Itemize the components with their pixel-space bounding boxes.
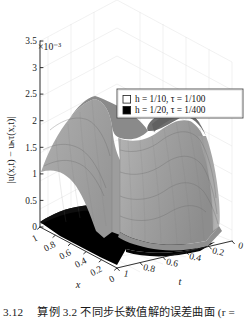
caption-number: 3.12 <box>3 306 23 318</box>
black-square-marker-icon <box>123 106 131 114</box>
error-surface-figure: 0 0.5 1 1.5 2 2.5 3 3.5 1 0.8 0.6 0.4 0.… <box>0 0 250 300</box>
z-tick-3: 1.5 <box>25 143 37 153</box>
z-tick-4: 2 <box>32 116 37 126</box>
white-square-marker-icon <box>123 96 131 104</box>
z-tick-5: 2.5 <box>25 89 37 99</box>
z-tick-2: 1 <box>32 169 37 179</box>
z-axis-label: |u(x,t) − uₕτ(x,t)| <box>5 117 17 184</box>
z-tick-7: 3.5 <box>25 36 37 46</box>
axis-exponent-label: ×10⁻³ <box>38 41 61 52</box>
z-tick-0: 0 <box>32 222 37 232</box>
legend-label-coarse: h = 1/10, τ = 1/100 <box>135 94 206 104</box>
z-tick-6: 3 <box>32 63 37 73</box>
legend-item-fine[interactable]: h = 1/20, τ = 1/400 <box>123 105 206 115</box>
caption-text: 算例 3.2 不同步长数值解的误差曲面 (r = <box>37 306 235 318</box>
legend-label-fine: h = 1/20, τ = 1/400 <box>135 105 206 115</box>
z-tick-1: 0.5 <box>25 196 37 206</box>
figure-caption: 3.12 算例 3.2 不同步长数值解的误差曲面 (r = <box>0 302 250 323</box>
legend[interactable]: h = 1/10, τ = 1/100 h = 1/20, τ = 1/400 <box>117 89 243 118</box>
x-axis-label: x <box>75 279 81 290</box>
legend-item-coarse[interactable]: h = 1/10, τ = 1/100 <box>123 94 206 104</box>
